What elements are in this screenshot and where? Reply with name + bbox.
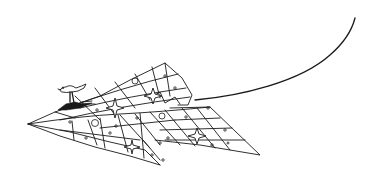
paper-airplane-drawing (0, 0, 378, 182)
string-trail (195, 18, 355, 100)
lower-body (28, 107, 210, 165)
illustration-canvas (0, 0, 378, 182)
right-wing (120, 107, 260, 155)
